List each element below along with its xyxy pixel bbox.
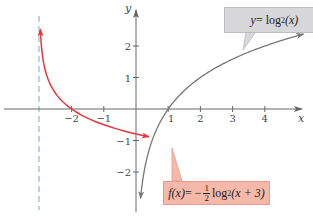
f-label-arg: (x + 3): [231, 186, 264, 201]
y-tick-label: 2: [125, 41, 131, 52]
f-label-eq: = −: [185, 186, 202, 201]
y-tick-label: −2: [116, 167, 131, 178]
x-tick-label: 3: [229, 113, 235, 124]
x-tick-label: 2: [197, 113, 203, 124]
f-label: f(x) = − 1 2 log 2 (x + 3): [163, 181, 270, 205]
y-axis-label: y: [124, 2, 132, 15]
y-tick-label: −1: [116, 136, 131, 147]
f-label-num: 1: [203, 184, 210, 194]
x-tick-label: −2: [64, 113, 79, 124]
f-label-fraction: 1 2: [203, 184, 210, 203]
f-label-log: log: [212, 186, 227, 201]
log2-label-eq: = log: [256, 13, 281, 28]
blue-label-pointer: [243, 32, 256, 50]
f-label-den: 2: [204, 194, 209, 203]
red-label-pointer: [172, 148, 182, 181]
log2-curve: [141, 34, 304, 198]
x-axis-label: x: [298, 112, 305, 125]
log2-label: y = log 2 (x): [224, 7, 313, 33]
f-label-lhs: f(x): [168, 186, 185, 201]
x-tick-label: 1: [168, 113, 174, 124]
f-curve: [40, 29, 149, 136]
y-tick-label: 1: [125, 73, 131, 84]
x-tick-label: 4: [262, 113, 268, 124]
log2-label-arg: (x): [285, 13, 298, 28]
